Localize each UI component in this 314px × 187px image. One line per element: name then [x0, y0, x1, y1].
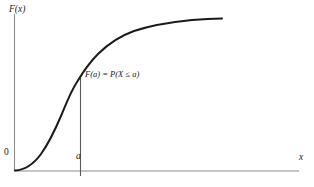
- x-tick-label-a: a: [76, 152, 81, 162]
- cdf-figure: F(x) x 0 a F(a) = P(X ≤ a): [0, 0, 314, 187]
- plot-canvas: [0, 0, 314, 187]
- x-axis-label: x: [299, 153, 303, 163]
- cdf-curve: [15, 18, 222, 170]
- origin-tick-label: 0: [4, 148, 9, 158]
- cdf-annotation: F(a) = P(X ≤ a): [85, 70, 139, 79]
- y-axis-label: F(x): [9, 5, 25, 15]
